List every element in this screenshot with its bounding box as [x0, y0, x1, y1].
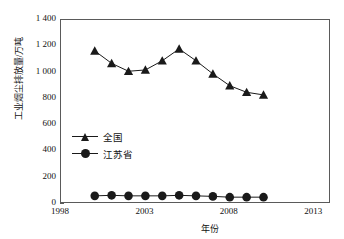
data-point-marker — [191, 56, 200, 64]
legend-label-jiangsu: 江苏省 — [103, 147, 133, 161]
data-point-marker — [209, 192, 218, 201]
data-point-marker — [141, 192, 150, 201]
chart-figure: 工业烟尘排放量/万吨 02004006008001 0001 2001 400 … — [0, 0, 344, 239]
y-axis-tick-label: 400 — [6, 145, 56, 154]
data-point-marker — [158, 192, 167, 201]
data-point-marker — [225, 81, 234, 89]
data-point-marker — [208, 69, 217, 77]
x-axis-tick-label: 2008 — [209, 206, 249, 216]
data-point-marker — [107, 59, 116, 67]
data-point-marker — [242, 193, 251, 202]
chart-legend: 全国 江苏省 — [72, 128, 133, 162]
series-line — [95, 49, 264, 95]
data-point-marker — [90, 46, 99, 54]
x-axis-tick-label: 2003 — [124, 206, 164, 216]
series-national — [90, 44, 268, 98]
legend-label-national: 全国 — [103, 130, 123, 144]
legend-item-national: 全国 — [72, 128, 133, 145]
y-axis-tick-label: 1 000 — [6, 67, 56, 76]
data-series-layer — [61, 20, 331, 204]
y-axis-tick-label: 600 — [6, 119, 56, 128]
data-point-marker — [175, 191, 184, 200]
plot-area — [60, 19, 330, 203]
data-point-marker — [242, 88, 251, 96]
y-axis-tick-label: 800 — [6, 93, 56, 102]
data-point-marker — [259, 193, 268, 202]
y-axis-tick-label: 1 200 — [6, 40, 56, 49]
data-point-marker — [175, 44, 184, 52]
data-point-marker — [141, 65, 150, 73]
x-axis-tick-label: 1998 — [40, 206, 80, 216]
data-point-marker — [107, 191, 116, 200]
data-point-marker — [225, 193, 234, 202]
circle-marker-icon — [72, 148, 98, 160]
data-point-marker — [90, 192, 99, 201]
legend-item-jiangsu: 江苏省 — [72, 145, 133, 162]
data-point-marker — [124, 192, 133, 201]
x-axis-title: 年份 — [0, 222, 344, 235]
x-axis-tick-label: 2013 — [293, 206, 333, 216]
triangle-marker-icon — [72, 131, 98, 143]
y-axis-tick-label: 200 — [6, 172, 56, 181]
series-jiangsu — [90, 191, 267, 201]
y-axis-tick-label: 1 400 — [6, 14, 56, 23]
data-point-marker — [192, 192, 201, 201]
data-point-marker — [158, 56, 167, 64]
